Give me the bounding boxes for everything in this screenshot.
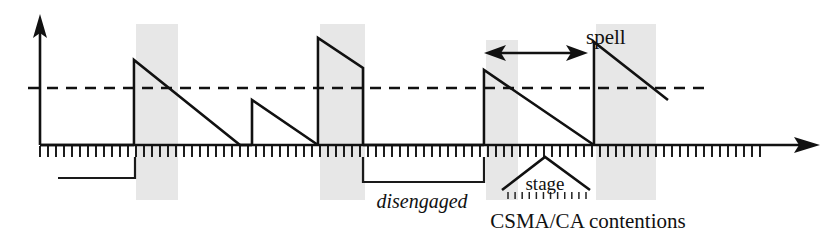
- spell-span: [484, 45, 588, 61]
- spell-label: spell: [586, 25, 626, 49]
- disengaged-label: disengaged: [376, 190, 468, 213]
- contention-band-1: [136, 24, 178, 200]
- backoff-timing-diagram: spell stage disengaged CSMA/CA contentio…: [0, 0, 839, 237]
- disengaged-segments: [58, 157, 484, 182]
- disengaged-segment-2: [363, 157, 484, 182]
- diagram-canvas: spell stage disengaged CSMA/CA contentio…: [0, 0, 839, 237]
- contention-band-2: [320, 24, 365, 200]
- contention-band-3: [486, 40, 518, 200]
- csma-contentions-label: CSMA/CA contentions: [490, 209, 685, 233]
- vertical-axis: [33, 14, 47, 145]
- stage-label: stage: [525, 173, 564, 194]
- disengaged-segment-1: [58, 157, 135, 178]
